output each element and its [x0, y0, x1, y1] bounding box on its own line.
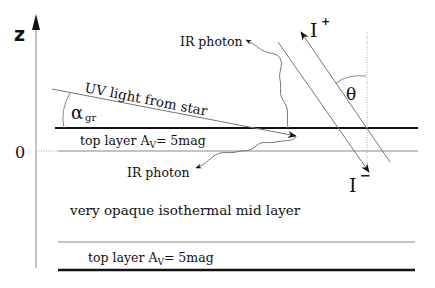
intensity-up-sup: + — [321, 15, 330, 28]
alpha-subscript: gr — [85, 112, 96, 123]
z-axis-arrow-icon — [32, 14, 40, 30]
theta-label: θ — [346, 84, 356, 104]
layered-disk-diagram: z 0 UV light from star α gr IR photon IR… — [0, 0, 435, 288]
alpha-angle-arc — [63, 93, 70, 128]
mid-layer-label: very opaque isothermal mid layer — [69, 202, 301, 218]
ir-photon-down-label: IR photon — [127, 165, 190, 180]
svg-text:top layer AV= 5mag: top layer AV= 5mag — [80, 133, 206, 150]
alpha-symbol: α — [71, 102, 83, 123]
ir-photon-down-path — [196, 137, 296, 168]
intensity-down-label: I — [349, 174, 357, 196]
intensity-down-sup: − — [360, 168, 371, 183]
svg-text:top layer AV= 5mag: top layer AV= 5mag — [88, 250, 214, 267]
intensity-down-ray — [278, 42, 369, 172]
theta-angle-arc — [336, 76, 366, 83]
ir-photon-up-path — [246, 40, 288, 128]
intensity-up-label: I — [310, 19, 318, 41]
origin-label: 0 — [15, 143, 25, 162]
lower-top-layer-label: top layer AV= 5mag — [88, 250, 214, 267]
z-axis-label: z — [14, 23, 25, 45]
z-axis — [32, 14, 40, 268]
ir-photon-up-label: IR photon — [180, 34, 243, 49]
upper-top-layer-label: top layer AV= 5mag — [80, 133, 206, 150]
